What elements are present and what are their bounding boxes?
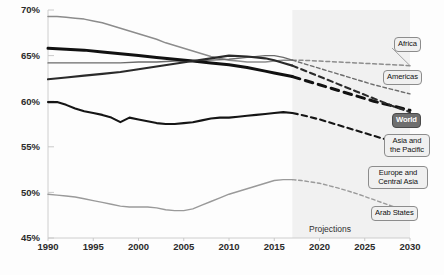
y-axis-ticks: 70%65%60%55%50%45% (21, 4, 54, 243)
y-tick-label: 55% (21, 141, 41, 152)
callout-world[interactable]: World (392, 113, 421, 128)
y-tick-label: 65% (21, 50, 41, 61)
x-tick-label: 1995 (83, 241, 105, 252)
callout-africa[interactable]: Africa (394, 37, 421, 52)
y-tick-label: 70% (21, 4, 41, 15)
chart-container: 70%65%60%55%50%45% 199019952000200520102… (0, 0, 444, 275)
x-tick-label: 1990 (37, 241, 58, 252)
callout-asia-and-the-pacific[interactable]: Asia and the Pacific (384, 134, 430, 157)
x-tick-label: 2015 (264, 241, 286, 252)
projections-label: Projections (309, 224, 351, 234)
x-tick-label: 2010 (218, 241, 239, 252)
series-line-europe-and-central-asia (48, 102, 292, 124)
series-line-africa (48, 16, 292, 62)
y-tick-label: 60% (21, 96, 41, 107)
x-tick-label: 2030 (399, 241, 420, 252)
x-tick-label: 2025 (354, 241, 376, 252)
line-chart-svg: 70%65%60%55%50%45% 199019952000200520102… (0, 0, 444, 275)
x-tick-label: 2000 (128, 241, 149, 252)
x-tick-label: 2005 (173, 241, 195, 252)
y-tick-label: 50% (21, 187, 41, 198)
series-line-arab-states (48, 180, 292, 211)
callout-europe-and-central-asia[interactable]: Europe and Central Asia (368, 166, 428, 189)
callout-arab-states[interactable]: Arab States (371, 206, 418, 221)
callout-americas[interactable]: Americas (383, 70, 422, 85)
x-tick-label: 2020 (309, 241, 330, 252)
